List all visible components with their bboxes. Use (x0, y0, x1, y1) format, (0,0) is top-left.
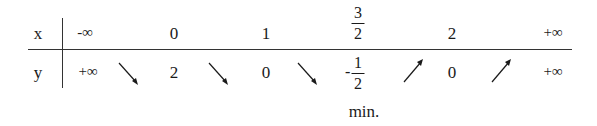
decreasing-arrow-icon (208, 62, 230, 86)
x-value-0: 0 (170, 25, 179, 42)
fraction-denominator: 2 (352, 76, 365, 92)
x-value-three-halves: 3 2 (352, 5, 365, 42)
x-value-pos-infinity: +∞ (543, 25, 562, 40)
fraction-denominator: 2 (352, 26, 365, 42)
x-value-2: 2 (448, 25, 457, 42)
row-label-y: y (34, 64, 43, 81)
horizontal-divider (28, 49, 572, 50)
y-value-neg-one-half: 1 2 (352, 55, 365, 92)
decreasing-arrow-icon (118, 62, 140, 86)
y-value-pos-infinity-right: +∞ (543, 64, 562, 79)
fraction-bar (352, 23, 365, 24)
x-value-neg-infinity: -∞ (77, 25, 93, 40)
fraction-numerator: 3 (352, 5, 365, 21)
fraction-bar (352, 73, 365, 74)
y-value-neg-sign: - (345, 64, 350, 80)
increasing-arrow-icon (491, 58, 513, 84)
minimum-annotation: min. (349, 103, 380, 120)
x-value-1: 1 (262, 25, 271, 42)
decreasing-arrow-icon (297, 62, 319, 86)
fraction-numerator: 1 (352, 55, 365, 71)
row-label-x: x (34, 25, 43, 42)
y-value-pos-infinity-left: +∞ (78, 64, 97, 79)
y-value-0: 0 (262, 64, 271, 81)
y-value-2: 2 (170, 64, 179, 81)
increasing-arrow-icon (403, 58, 425, 84)
y-value-0-second: 0 (448, 64, 457, 81)
vertical-divider (62, 18, 63, 88)
